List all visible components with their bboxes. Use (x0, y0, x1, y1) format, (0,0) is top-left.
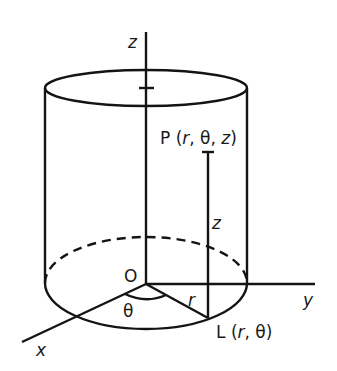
radius-r-label: r (188, 290, 196, 310)
radius-line (146, 284, 208, 318)
y-axis-label: y (302, 290, 314, 310)
height-z-label: z (211, 213, 222, 233)
x-axis-label: x (35, 340, 47, 360)
theta-arc (125, 294, 166, 299)
cylindrical-coordinates-diagram: z y x O P (r, θ, z) L (r, θ) z r θ (0, 0, 337, 371)
theta-label: θ (123, 301, 133, 321)
point-p-label: P (r, θ, z) (160, 128, 237, 148)
point-l-label: L (r, θ) (216, 322, 272, 342)
origin-label: O (124, 266, 137, 286)
z-axis-label: z (127, 32, 138, 52)
